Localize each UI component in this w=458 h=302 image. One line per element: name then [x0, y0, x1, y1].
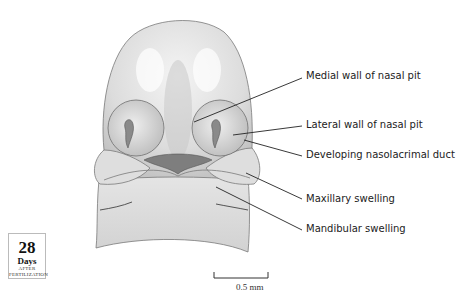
- scale-bar-label: 0.5 mm: [236, 282, 264, 292]
- age-unit: Days: [9, 256, 45, 266]
- diagram: Medial wall of nasal pit Lateral wall of…: [0, 0, 458, 302]
- label-maxillary-swelling: Maxillary swelling: [306, 193, 395, 204]
- age-caption: AFTER FERTILIZATION: [9, 266, 45, 278]
- label-lateral-wall-of-nasal-pit: Lateral wall of nasal pit: [306, 119, 423, 130]
- label-mandibular-swelling: Mandibular swelling: [306, 223, 406, 234]
- label-developing-nasolacrimal-duct: Developing nasolacrimal duct: [306, 149, 455, 160]
- label-medial-wall-of-nasal-pit: Medial wall of nasal pit: [306, 70, 421, 81]
- age-badge: 28 Days AFTER FERTILIZATION: [8, 233, 46, 279]
- scale-bar: [214, 272, 268, 278]
- age-number: 28: [9, 239, 45, 256]
- nasal-pit-left: [108, 100, 164, 156]
- nasal-pit-right: [192, 100, 248, 156]
